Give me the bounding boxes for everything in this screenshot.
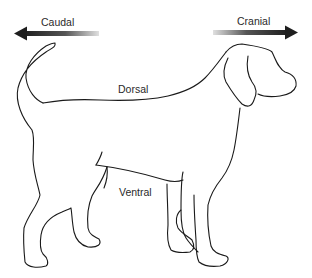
dorsal-label: Dorsal <box>118 83 148 95</box>
caudal-label: Caudal <box>41 16 74 28</box>
caudal-arrow <box>14 27 99 41</box>
cranial-label: Cranial <box>237 15 270 27</box>
ventral-label: Ventral <box>119 186 152 198</box>
dog-diagram <box>0 0 312 278</box>
cranial-arrow <box>213 26 298 40</box>
dog-outline <box>17 43 296 267</box>
